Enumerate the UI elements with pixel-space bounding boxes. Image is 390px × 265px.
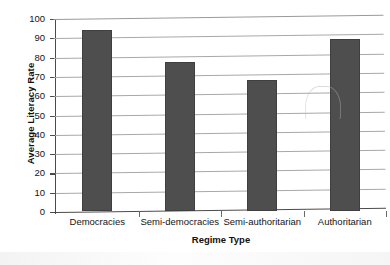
y-axis-label-0: 0	[15, 207, 45, 217]
bar-slot	[139, 19, 222, 212]
y-axis-label-30: 30	[15, 149, 45, 159]
x-axis-label-1: Semi-democracies	[139, 216, 222, 227]
category-separator-tick	[386, 211, 387, 217]
y-axis-label-50: 50	[15, 111, 45, 121]
bar-slot	[221, 19, 304, 212]
bars-layer	[56, 19, 386, 212]
y-axis-label-80: 80	[15, 53, 45, 63]
x-axis-tick-labels: DemocraciesSemi-democraciesSemi-authorit…	[56, 216, 386, 232]
bar-slot	[304, 19, 387, 212]
y-axis-label-70: 70	[15, 72, 45, 82]
y-axis-label-40: 40	[15, 130, 45, 140]
x-axis-title: Regime Type	[56, 234, 386, 245]
x-axis-label-2: Semi-authoritarian	[221, 216, 304, 227]
x-axis-label-0: Democracies	[56, 216, 139, 227]
y-axis-label-20: 20	[15, 168, 45, 178]
scan-smudge	[0, 252, 390, 265]
bar	[165, 62, 195, 211]
y-axis-label-10: 10	[15, 188, 45, 198]
bar	[330, 39, 360, 211]
bar-slot	[56, 19, 139, 212]
bar	[247, 80, 277, 211]
x-axis-label-3: Authoritarian	[304, 216, 387, 227]
bar	[82, 30, 112, 211]
y-axis-label-60: 60	[15, 91, 45, 101]
plot-area	[56, 19, 386, 212]
bar-chart-figure: Average Literacy Rate 010203040506070809…	[0, 0, 390, 265]
y-axis-label-100: 100	[15, 14, 45, 24]
y-axis-label-90: 90	[15, 33, 45, 43]
